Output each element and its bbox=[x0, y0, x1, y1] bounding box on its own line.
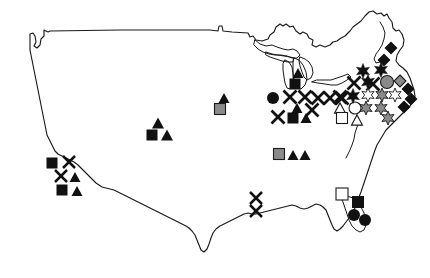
map-marker-triangle-black[interactable] bbox=[70, 172, 81, 182]
map-marker-circle-gray[interactable] bbox=[381, 76, 394, 89]
map-marker-square-black[interactable] bbox=[47, 158, 58, 169]
map-marker-circle-white[interactable] bbox=[349, 102, 361, 114]
map-marker-circle-black[interactable] bbox=[267, 92, 279, 104]
map-marker-circle-black[interactable] bbox=[348, 209, 360, 221]
map-marker-square-black[interactable] bbox=[57, 185, 68, 196]
map-marker-circle-black[interactable] bbox=[359, 214, 371, 226]
map-marker-x-black[interactable] bbox=[55, 170, 67, 182]
us-map-svg bbox=[0, 0, 430, 278]
map-marker-square-white[interactable] bbox=[336, 188, 348, 200]
map-marker-square-black[interactable] bbox=[290, 79, 301, 90]
map-marker-square-white[interactable] bbox=[337, 113, 348, 124]
map-marker-square-black[interactable] bbox=[147, 130, 158, 141]
map-marker-triangle-black[interactable] bbox=[72, 186, 83, 196]
map-marker-square-black[interactable] bbox=[352, 196, 364, 208]
map-marker-square-gray[interactable] bbox=[215, 104, 226, 115]
map-container bbox=[0, 0, 430, 278]
map-marker-square-black[interactable] bbox=[288, 113, 299, 124]
map-marker-square-gray[interactable] bbox=[274, 149, 285, 160]
